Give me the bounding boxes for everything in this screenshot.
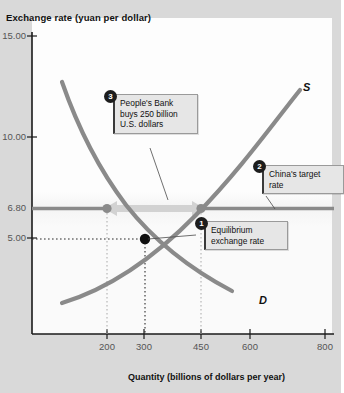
callout3-leader-line [150, 148, 168, 200]
y-tick-label-10: 10.00 [0, 131, 26, 142]
callout-1-badge: 1 [195, 217, 208, 230]
x-tick-label-450: 450 [186, 341, 216, 352]
x-tick-label-800: 800 [310, 341, 340, 352]
x-tick-label-300: 300 [129, 341, 159, 352]
callout-3-line-3: U.S. dollars [120, 119, 193, 130]
demand-at-target-point [102, 204, 111, 213]
callout-2-badge: 2 [253, 160, 266, 173]
y-tick-label-15: 15.00 [0, 30, 26, 41]
callout-1-line-1: Equilibrium [211, 225, 283, 236]
callout-2-line-1: China's target [269, 169, 339, 180]
x-tick-label-600: 600 [235, 341, 265, 352]
callout-3-line-2: buys 250 billion [120, 109, 193, 120]
supply-curve-label: S [303, 81, 310, 93]
callout-1-line-2: exchange rate [211, 236, 283, 247]
y-tick-label-5: 5.00 [0, 232, 26, 243]
y-tick-label-680: 6.80 [0, 202, 26, 213]
callout-2-box: China's target rate [262, 165, 344, 194]
x-axis-title: Quantity (billions of dollars per year) [128, 372, 285, 382]
central-bank-purchase-arrow [104, 201, 205, 216]
callout-2-line-2: rate [269, 180, 339, 191]
x-tick-label-200: 200 [92, 341, 122, 352]
callout-1-box: Equilibrium exchange rate [204, 221, 288, 250]
supply-at-target-point [196, 204, 205, 213]
callout-3-badge: 3 [104, 90, 117, 103]
demand-curve-label: D [259, 294, 267, 306]
callout-3-line-1: People's Bank [120, 98, 193, 109]
callout-3-box: People's Bank buys 250 billion U.S. doll… [113, 94, 198, 134]
